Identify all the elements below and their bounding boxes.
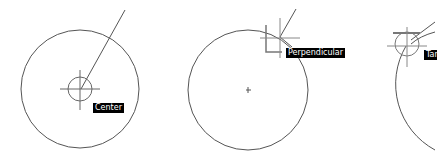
panel-center-snap (21, 10, 139, 148)
snap-tooltip-center: Center (93, 103, 124, 113)
rubber-band-line (81, 10, 125, 89)
snap-tooltip-tangent: Tan (424, 50, 437, 60)
rubber-band-line (411, 22, 435, 40)
panel-tangent-snap (387, 22, 435, 150)
panel-perpendicular-snap (188, 9, 308, 150)
circle-object[interactable] (396, 46, 435, 150)
rubber-band-line (280, 9, 296, 37)
snap-tooltip-perpendicular: Perpendicular (286, 48, 345, 58)
